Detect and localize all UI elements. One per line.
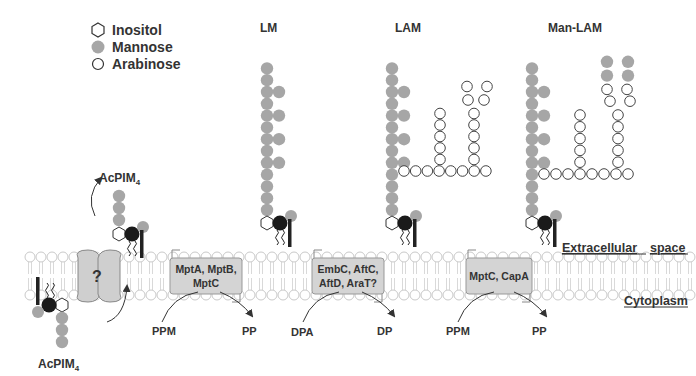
mannose-icon xyxy=(386,145,398,157)
mannose-icon xyxy=(398,86,410,98)
arabinose-icon xyxy=(463,95,474,106)
acpim4-bottom-label: AcPIM4 xyxy=(38,357,80,373)
mannose-icon xyxy=(526,74,538,86)
mannose-icon xyxy=(526,98,538,110)
inositol-icon xyxy=(526,216,538,230)
mannose-icon xyxy=(113,202,125,214)
mannose-icon xyxy=(538,86,550,98)
mannose-icon xyxy=(113,214,125,226)
acyl-chain xyxy=(553,219,557,247)
arabinose-icon xyxy=(93,59,104,70)
mannose-icon xyxy=(622,56,634,68)
flippase-question-label: ? xyxy=(92,268,102,285)
arabinose-icon xyxy=(613,133,624,144)
mannose-icon xyxy=(32,306,44,318)
fatty-acid-tail xyxy=(282,230,285,245)
mannose-icon xyxy=(398,109,410,121)
enzyme-label-line2: MptC xyxy=(193,277,220,289)
legend-inositol-label: Inositol xyxy=(112,22,162,38)
arabinose-icon xyxy=(622,84,633,95)
mannose-icon xyxy=(386,180,398,192)
mannose-icon xyxy=(261,109,273,121)
mannose-icon xyxy=(526,192,538,204)
arabinose-icon xyxy=(469,108,480,119)
arabinose-icon xyxy=(457,166,468,177)
arabinose-icon xyxy=(613,157,624,168)
enzyme-label: MptC, CapA xyxy=(469,270,529,282)
mannose-icon xyxy=(261,98,273,110)
glycolipid-molecules xyxy=(32,56,635,349)
acpim4-inner-molecule xyxy=(32,277,68,348)
title-man-lam: Man-LAM xyxy=(548,21,602,35)
enzyme-label-line1: MptA, MptB, xyxy=(175,263,236,275)
arabinose-icon xyxy=(462,81,473,92)
mannose-icon xyxy=(386,121,398,133)
mannose-icon xyxy=(261,145,273,157)
mannose-icon xyxy=(601,56,613,68)
arabinose-icon xyxy=(434,166,445,177)
arabinose-icon xyxy=(469,131,480,142)
fatty-acid-tail xyxy=(134,241,137,256)
arabinose-icon xyxy=(625,96,636,107)
arabinose-icon xyxy=(399,166,410,177)
inositol-icon xyxy=(92,23,104,37)
arabinose-icon xyxy=(446,166,457,177)
mannose-icon xyxy=(398,133,410,145)
mannose-icon xyxy=(386,157,398,169)
mannose-icon xyxy=(526,133,538,145)
mannose-icon xyxy=(386,109,398,121)
mannose-icon xyxy=(273,157,285,169)
donor-label: DPA xyxy=(291,326,313,338)
acyl-chain xyxy=(288,219,292,247)
mannose-icon xyxy=(386,168,398,180)
mannose-icon xyxy=(538,109,550,121)
fatty-acid-tail xyxy=(547,230,550,245)
mannose-icon xyxy=(526,62,538,74)
mannose-icon xyxy=(538,157,550,169)
mannose-icon xyxy=(386,204,398,216)
mannose-icon xyxy=(261,168,273,180)
mannose-icon xyxy=(273,86,285,98)
fatty-acid-tail xyxy=(407,230,410,245)
mannose-icon xyxy=(261,180,273,192)
cytoplasm-label: Cytoplasm xyxy=(624,294,688,308)
arabinose-icon xyxy=(623,169,634,180)
product-label: PP xyxy=(242,325,257,337)
arabinose-icon xyxy=(469,166,480,177)
extracellular-word2: space xyxy=(650,241,685,255)
inositol-icon xyxy=(113,227,125,241)
lipoarabinomannan-molecule xyxy=(386,62,493,247)
arabinose-icon xyxy=(482,81,493,92)
mannose-icon xyxy=(538,133,550,145)
arabinose-icon xyxy=(575,122,586,133)
enzyme-mptc-capa: MptC, CapA xyxy=(466,250,532,302)
mannose-icon xyxy=(113,190,125,202)
donor-label: PPM xyxy=(152,325,176,337)
arabinose-icon xyxy=(481,166,492,177)
donor-label: PPM xyxy=(446,325,470,337)
enzyme-label-line2: AftD, AraT? xyxy=(319,277,377,289)
mannose-icon xyxy=(261,133,273,145)
legend-mannose-label: Mannose xyxy=(112,39,173,55)
phosphoglycerol-icon xyxy=(273,216,288,231)
mannose-icon xyxy=(261,192,273,204)
phosphoglycerol-icon xyxy=(538,216,553,231)
arabinose-icon xyxy=(575,145,586,156)
mannose-icon xyxy=(386,98,398,110)
arabinose-icon xyxy=(469,143,480,154)
phosphoglycerol-icon xyxy=(398,216,413,231)
lipoglycan-biosynthesis-diagram: Inositol Mannose Arabinose LM LAM Man-LA… xyxy=(0,0,696,376)
arabinose-icon xyxy=(587,169,598,180)
arabinose-icon xyxy=(469,120,480,131)
arabinose-icon xyxy=(611,169,622,180)
mannose-icon xyxy=(601,69,613,81)
fatty-acid-tail xyxy=(541,230,544,245)
mannose-icon xyxy=(622,69,634,81)
arabinose-icon xyxy=(613,145,624,156)
mannose-icon xyxy=(386,86,398,98)
mannose-icon xyxy=(526,168,538,180)
mannose-icon xyxy=(526,109,538,121)
mannose-icon xyxy=(526,86,538,98)
enzyme-embc-aftc-aftd-arat: EmbC, AftC, AftD, AraT? xyxy=(312,250,384,302)
extracellular-word1: Extracellular xyxy=(562,241,637,255)
